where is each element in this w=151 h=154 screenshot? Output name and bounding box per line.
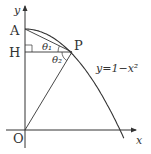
point-h-label: H: [9, 45, 20, 60]
right-angle-mark: [25, 45, 32, 52]
point-a-label: A: [9, 23, 20, 38]
theta2-label: θ₂: [52, 54, 62, 65]
segment-op: [25, 52, 72, 130]
theta1-label: θ₁: [42, 41, 52, 52]
y-axis-label: y: [13, 4, 21, 17]
x-axis-label: x: [136, 134, 143, 147]
point-p-label: P: [74, 38, 83, 53]
origin-label: O: [13, 131, 24, 146]
theta1-arc: [58, 46, 59, 52]
curve-equation-label: y=1−x²: [95, 62, 138, 75]
theta2-arc: [62, 52, 67, 61]
parabola-diagram: y x A H P O θ₁ θ₂ y=1−x²: [0, 0, 151, 154]
